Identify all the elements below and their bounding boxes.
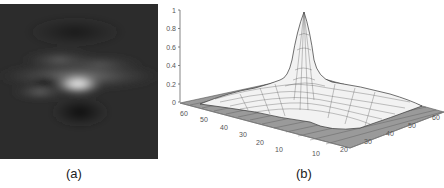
svg-text:40: 40 [386,130,394,137]
svg-text:40: 40 [220,124,228,131]
surface-plot-panel: 1 0.8 0.6 0.4 0.2 0 [160,0,444,160]
svg-text:50: 50 [200,116,208,123]
svg-text:0.2: 0.2 [166,81,176,88]
svg-text:0.6: 0.6 [166,44,176,51]
svg-text:10: 10 [312,150,320,157]
svg-text:0: 0 [172,99,176,106]
caption-b: (b) [296,166,312,181]
svg-text:30: 30 [364,138,372,145]
caption-a: (a) [66,166,82,181]
svg-text:50: 50 [408,122,416,129]
intensity-image-panel [0,4,158,159]
svg-text:20: 20 [340,146,348,153]
svg-text:60: 60 [180,110,188,117]
svg-text:0.8: 0.8 [166,25,176,32]
surface-plot: 1 0.8 0.6 0.4 0.2 0 [160,0,444,160]
svg-text:20: 20 [256,139,264,146]
svg-text:0.4: 0.4 [166,62,176,69]
z-ticks: 1 0.8 0.6 0.4 0.2 0 [166,7,180,106]
svg-text:1: 1 [172,7,176,14]
svg-text:10: 10 [275,146,283,153]
svg-text:60: 60 [432,114,440,121]
svg-text:30: 30 [239,131,247,138]
intensity-image [0,4,158,159]
